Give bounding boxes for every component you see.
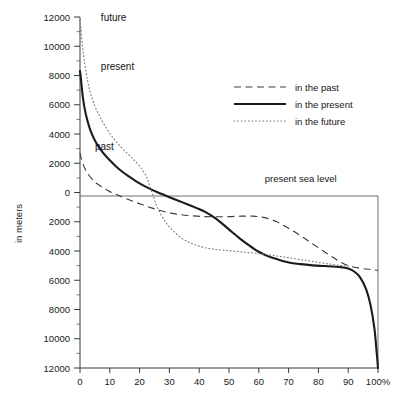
y-tick-label: 4000 <box>49 246 70 257</box>
x-tick-label: 80 <box>313 376 324 387</box>
y-tick-label: 12000 <box>44 12 70 23</box>
y-tick-label: 10000 <box>44 41 70 52</box>
legend-label: in the past <box>295 82 339 93</box>
y-axis-title: in meters <box>13 204 24 243</box>
y-tick-label: 8000 <box>49 70 70 81</box>
y-tick-label: 2000 <box>49 158 70 169</box>
x-tick-label: 100% <box>366 376 391 387</box>
y-tick-label: 6000 <box>49 275 70 286</box>
x-tick-label: 60 <box>254 376 265 387</box>
annotation-future: future <box>101 12 127 23</box>
x-tick-label: 40 <box>194 376 205 387</box>
y-axis-ticks: 1200010000800060004000200002000400060008… <box>44 12 80 374</box>
annotation-present: present <box>101 61 135 72</box>
y-tick-label: 0 <box>65 187 70 198</box>
x-tick-label: 90 <box>343 376 354 387</box>
x-tick-label: 70 <box>283 376 294 387</box>
y-tick-label: 12000 <box>44 363 70 374</box>
y-tick-label: 8000 <box>49 304 70 315</box>
y-tick-label: 2000 <box>49 216 70 227</box>
y-tick-label: 10000 <box>44 333 70 344</box>
hypsometric-curve-chart: 1200010000800060004000200002000400060008… <box>0 0 404 411</box>
x-tick-label: 10 <box>105 376 116 387</box>
series-line-dotted <box>80 20 348 266</box>
chart-svg: 1200010000800060004000200002000400060008… <box>0 0 404 411</box>
y-tick-label: 4000 <box>49 129 70 140</box>
annotation-present-sea-level: present sea level <box>265 173 337 184</box>
y-tick-label: 6000 <box>49 99 70 110</box>
chart-legend: in the pastin the presentin the future <box>234 82 353 127</box>
legend-label: in the future <box>295 116 345 127</box>
x-tick-label: 20 <box>134 376 145 387</box>
legend-label: in the present <box>295 99 353 110</box>
x-tick-label: 30 <box>164 376 175 387</box>
x-tick-label: 50 <box>224 376 235 387</box>
annotation-past: past <box>95 141 114 152</box>
x-tick-label: 0 <box>77 376 82 387</box>
x-axis-ticks: 0102030405060708090100% <box>77 368 390 387</box>
series-line-dashed <box>80 153 378 270</box>
